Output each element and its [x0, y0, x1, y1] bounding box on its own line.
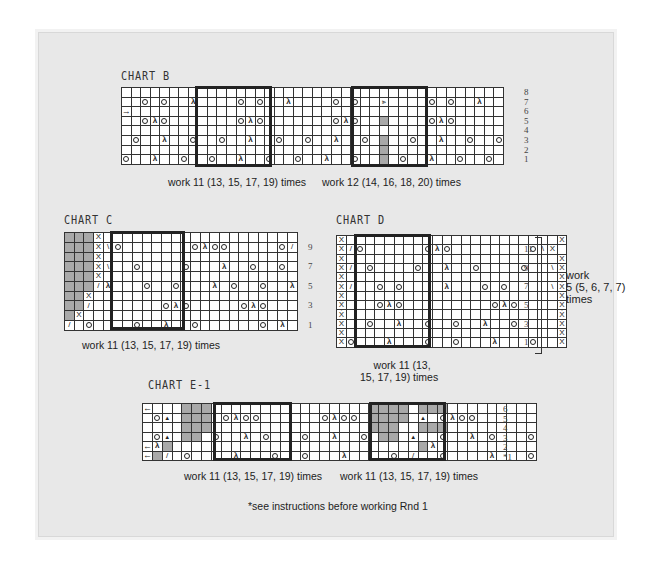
chart-cell [399, 442, 408, 451]
chart-cell [172, 272, 181, 281]
chart-cell [494, 136, 503, 145]
chart-cell [375, 245, 384, 253]
chart-cell [294, 117, 303, 126]
chart-cell [227, 107, 236, 116]
chart-cell [251, 404, 260, 413]
chart-cell [122, 146, 131, 155]
chart-cell [478, 414, 487, 423]
footnote: *see instructions before working Rnd 1 [248, 500, 428, 512]
chart-cell [380, 155, 389, 164]
chart-cell [447, 107, 456, 116]
chart-cell [320, 442, 329, 451]
chart-cell [423, 245, 432, 253]
chart-cell [143, 233, 152, 242]
chart-cell [475, 126, 484, 135]
chart-cell [478, 423, 487, 432]
chart-cell [471, 292, 480, 300]
chart-cell [113, 233, 122, 242]
chart-cell [261, 442, 270, 451]
chart-cell [192, 414, 201, 423]
chart-cell [527, 423, 536, 432]
chart-cell [423, 282, 432, 290]
chart-cell [275, 146, 284, 155]
chart-cell [462, 310, 471, 318]
chart-cell [404, 236, 413, 244]
chart-cell [191, 272, 200, 281]
chart-cell [438, 404, 447, 413]
chart-cell [162, 272, 171, 281]
chart-cell [399, 146, 408, 155]
chart-cell [170, 136, 179, 145]
chart-cell [380, 136, 389, 145]
chart-cell [237, 155, 246, 164]
chart-d-side-label-line2: 5 (5, 6, 7, 7) [566, 281, 625, 293]
chart-cell [375, 310, 384, 318]
chart-cell [208, 155, 217, 164]
chart-cell [163, 414, 172, 423]
chart-cell [303, 155, 312, 164]
chart-cell [152, 272, 161, 281]
chart-cell [153, 404, 162, 413]
chart-cell [256, 126, 265, 135]
chart-d-side-label: work 5 (5, 6, 7, 7) times [566, 269, 625, 305]
chart-cell [332, 117, 341, 126]
chart-cell [275, 117, 284, 126]
chart-cell [132, 117, 141, 126]
chart-cell [288, 282, 297, 291]
chart-cell [230, 262, 239, 271]
chart-cell [222, 404, 231, 413]
chart-cell [347, 292, 356, 300]
chart-cell [172, 301, 181, 310]
chart-cell [428, 136, 437, 145]
chart-cell [201, 262, 210, 271]
chart-cell [237, 126, 246, 135]
chart-cell [237, 88, 246, 97]
chart-cell [466, 98, 475, 107]
chart-cell [191, 292, 200, 301]
chart-cell [510, 255, 519, 263]
chart-cell [414, 320, 423, 328]
row-number: *1 [503, 453, 512, 463]
chart-cell [404, 292, 413, 300]
chart-cell [471, 245, 480, 253]
chart-cell [123, 253, 132, 262]
chart-cell [212, 414, 221, 423]
chart-cell [160, 107, 169, 116]
chart-cell [452, 245, 461, 253]
chart-cell [448, 433, 457, 442]
chart-cell [303, 98, 312, 107]
chart-cell [379, 404, 388, 413]
chart-cell [485, 117, 494, 126]
chart-cell [212, 442, 221, 451]
chart-cell [288, 262, 297, 271]
chart-cell [291, 442, 300, 451]
chart-cell [278, 321, 287, 330]
chart-cell [423, 264, 432, 272]
chart-cell [132, 98, 141, 107]
chart-cell [104, 262, 113, 271]
chart-cell [337, 245, 346, 253]
chart-cell [249, 301, 258, 310]
chart-cell [418, 117, 427, 126]
chart-cell [65, 243, 74, 252]
chart-cell [385, 282, 394, 290]
chart-cell [249, 282, 258, 291]
chart-cell [217, 146, 226, 155]
chart-cell [527, 414, 536, 423]
chart-cell [288, 272, 297, 281]
chart-cell [151, 107, 160, 116]
chart-cell [284, 136, 293, 145]
chart-cell [201, 292, 210, 301]
chart-cell [369, 433, 378, 442]
chart-cell [261, 433, 270, 442]
chart-cell [153, 433, 162, 442]
chart-cell [301, 404, 310, 413]
chart-cell [232, 433, 241, 442]
chart-cell [466, 136, 475, 145]
chart-cell [389, 452, 398, 461]
chart-cell [471, 301, 480, 309]
chart-cell [481, 273, 490, 281]
chart-cell [351, 98, 360, 107]
chart-e1-caption-1: work 11 (13, 15, 17, 19) times [184, 470, 322, 482]
chart-cell [452, 310, 461, 318]
